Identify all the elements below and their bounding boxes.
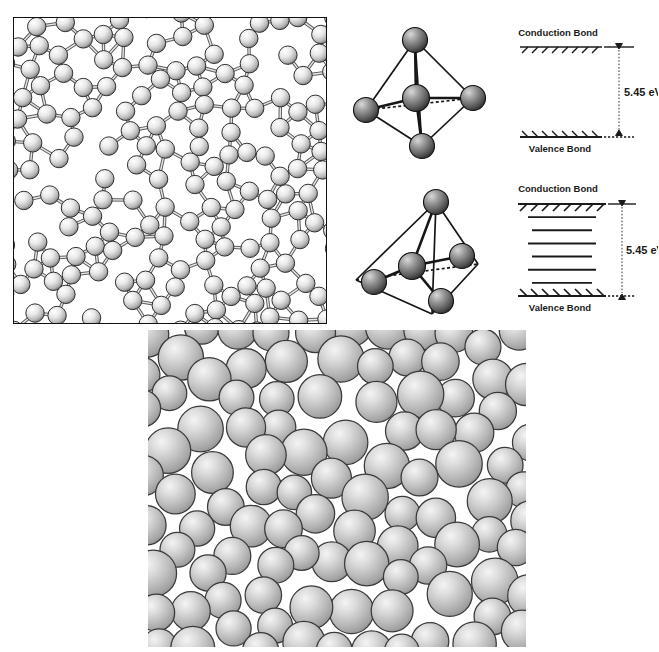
localized-state-group [528,217,596,283]
tetrahedron-crystalline [340,18,490,168]
band-diagram-crystalline: Conduction Bond [498,22,658,172]
packing-diagram [148,330,526,647]
valence-band-line-bottom [518,289,606,296]
valence-band-label-bottom: Valence Bond [529,302,591,313]
tetra-crystal-atoms [354,28,486,159]
tetrahedron-amorphous [340,178,490,328]
continuous-random-network-panel [13,17,327,324]
network-diagram [14,18,326,323]
band-diagram-amorphous: Conduction Bond [498,178,658,328]
dense-random-packing-panel [148,330,526,647]
valence-band-line-top [520,131,602,137]
tetrahedron-amorphous-svg [340,178,490,328]
band-gap-value-top: 5.45 eV [624,86,658,98]
tetrahedron-crystalline-svg [340,18,490,168]
band-amorphous-svg: Conduction Bond [498,178,658,328]
band-crystalline-svg: Conduction Bond [498,22,658,172]
figure-canvas: Conduction Bond [0,0,659,652]
conduction-band-line-top [520,47,602,53]
band-gap-value-bottom: 5.45 eV [626,244,658,256]
conduction-band-line-bottom [518,204,606,211]
valence-band-label-top: Valence Bond [529,143,591,154]
conduction-band-label-bottom: Conduction Bond [518,183,598,194]
conduction-band-label-top: Conduction Bond [518,27,598,38]
